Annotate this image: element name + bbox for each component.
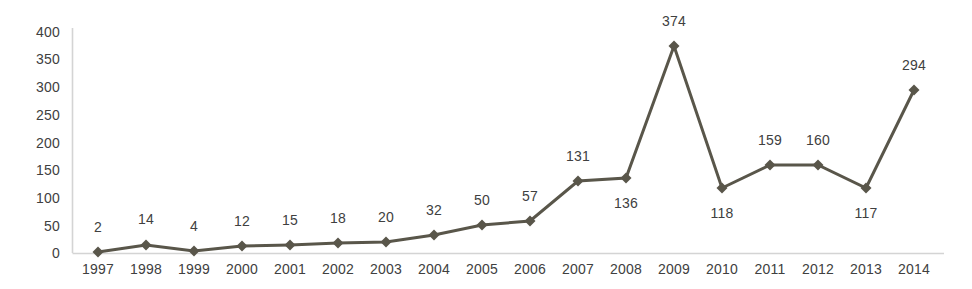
data-label-2007: 131 — [553, 149, 603, 163]
data-label-1999: 4 — [169, 219, 219, 233]
data-label-2008: 136 — [601, 196, 651, 210]
data-label-1998: 14 — [121, 212, 171, 226]
x-tick-label-2014: 2014 — [884, 262, 944, 276]
data-label-2000: 12 — [217, 214, 267, 228]
data-label-2013: 117 — [841, 206, 891, 220]
data-label-2006: 57 — [505, 189, 555, 203]
data-label-2003: 20 — [361, 210, 411, 224]
data-label-2002: 18 — [313, 211, 363, 225]
data-label-2012: 160 — [793, 133, 843, 147]
data-label-2014: 294 — [889, 58, 939, 72]
line-chart: 400 350 300 250 200 150 100 50 0 — [0, 0, 972, 289]
data-label-2005: 50 — [457, 193, 507, 207]
data-label-2009: 374 — [649, 14, 699, 28]
data-label-2011: 159 — [745, 133, 795, 147]
data-label-2004: 32 — [409, 203, 459, 217]
data-label-2001: 15 — [265, 213, 315, 227]
data-label-1997: 2 — [73, 220, 123, 234]
data-label-2010: 118 — [697, 206, 747, 220]
